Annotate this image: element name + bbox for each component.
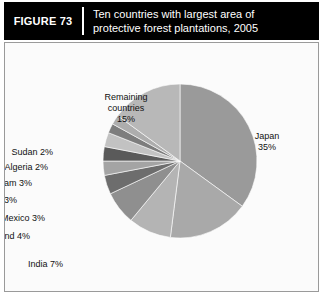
pie-slice-label-line: Japan xyxy=(217,131,317,142)
pie-slice-label: Viet Nam 3% xyxy=(4,178,32,189)
pie-slice-label: Thailand 4% xyxy=(4,231,30,242)
figure-container: FIGURE 73 Ten countries with largest are… xyxy=(0,0,323,296)
pie-slice-label: RussianFederation 17% xyxy=(191,290,291,292)
figure-title-cell: Ten countries with largest area of prote… xyxy=(84,2,319,40)
pie-slice-label-line: Viet Nam 3% xyxy=(4,178,32,189)
pie-slice-label-line: Mexico 3% xyxy=(4,213,45,224)
figure-number-label: FIGURE 73 xyxy=(14,15,73,27)
pie-slice-label: Sudan 2% xyxy=(11,147,53,158)
pie-slice-label-line: Algeria 2% xyxy=(4,162,48,173)
pie-chart xyxy=(5,43,318,291)
pie-slice-label-line: countries xyxy=(76,103,176,114)
pie-slice-label: Mexico 3% xyxy=(4,213,45,224)
pie-slice-label: Japan35% xyxy=(217,131,317,153)
pie-slice-label: India 7% xyxy=(28,259,63,270)
pie-slice-label-line: India 7% xyxy=(28,259,63,270)
pie-slice-label-line: Remaining xyxy=(76,92,176,103)
pie-slice-label-line: Russian xyxy=(191,290,291,292)
pie-slice-label: Remainingcountries15% xyxy=(76,92,176,125)
pie-slice-label-line: 15% xyxy=(76,114,176,125)
pie-slice-label-line: 35% xyxy=(217,142,317,153)
figure-title-line-2: protective forest plantations, 2005 xyxy=(93,21,319,35)
pie-slice-label-line: Thailand 4% xyxy=(4,231,30,242)
figure-number-cell: FIGURE 73 xyxy=(4,2,82,40)
pie-slice-label: Algeria 2% xyxy=(4,162,48,173)
pie-slice-label-line: Kazakhstan 3% xyxy=(4,195,17,206)
figure-header-bar: FIGURE 73 Ten countries with largest are… xyxy=(4,2,319,40)
pie-slice-label: Kazakhstan 3% xyxy=(4,195,17,206)
pie-slice-label-line: Sudan 2% xyxy=(11,147,53,158)
figure-title-line-1: Ten countries with largest area of xyxy=(93,7,319,21)
chart-body: Japan35%RussianFederation 17%China 9%Ind… xyxy=(4,42,319,292)
